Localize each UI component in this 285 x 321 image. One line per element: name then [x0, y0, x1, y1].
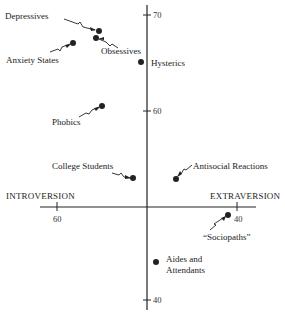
y-tick-label-70: 70 [153, 10, 162, 20]
point-aides-attendants [153, 259, 159, 265]
point-obsessives [93, 35, 99, 41]
label-college-students: College Students [52, 161, 114, 171]
label-anxiety-states: Anxiety States [6, 55, 59, 65]
introversion-label: INTROVERSION [6, 191, 75, 201]
label-aides-line1: Aides and [166, 254, 203, 264]
point-antisocial-reactions [173, 176, 179, 182]
scatter-chart: 70 60 40 60 40 INTROVERSION EXTRAVERSION… [0, 0, 285, 321]
x-tick-label-60: 60 [53, 214, 62, 224]
point-hysterics [138, 59, 144, 65]
point-depressives [96, 28, 102, 34]
label-aides-line2: Attendants [166, 265, 205, 275]
point-phobics [99, 103, 105, 109]
label-antisocial-reactions: Antisocial Reactions [193, 161, 268, 171]
y-tick-label-40: 40 [153, 295, 162, 305]
label-hysterics: Hysterics [151, 58, 185, 68]
label-phobics: Phobics [52, 117, 81, 127]
y-tick-label-60: 60 [153, 106, 162, 116]
label-sociopaths: “Sociopaths” [203, 232, 251, 242]
x-tick-label-40: 40 [234, 214, 243, 224]
label-obsessives: Obsessives [101, 46, 141, 56]
point-sociopaths [225, 212, 231, 218]
extraversion-label: EXTRAVERSION [210, 191, 281, 201]
arrow-heads [65, 27, 226, 221]
point-anxiety-states [70, 40, 76, 46]
label-depressives: Depressives [5, 11, 49, 21]
